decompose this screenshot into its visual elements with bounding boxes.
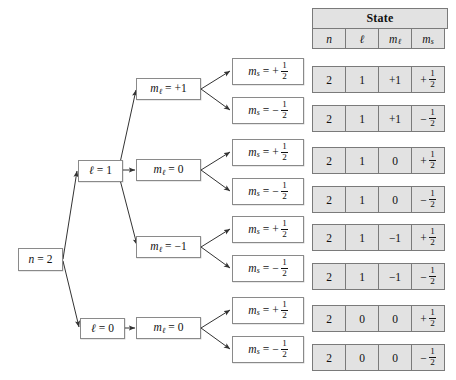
table-row[interactable]: 2 0 0 − 1 2 [312,344,448,371]
cell-l: 0 [345,305,379,332]
node-ml-plus1[interactable]: mℓ = +1 [136,78,201,100]
table-row[interactable]: 2 1 0 + 1 2 [312,147,448,174]
node-l-1[interactable]: ℓ = 1 [78,160,123,182]
fraction-half: 1 2 [429,108,436,128]
node-l-1-expression: ℓ = 1 [89,165,112,177]
denominator: 2 [281,192,288,202]
numerator: 1 [281,142,288,153]
cell-ml: −1 [378,263,412,290]
numerator: 1 [429,347,436,358]
fraction-half: 1 2 [429,69,436,89]
node-ms-6[interactable]: ms = − 1 2 [232,255,304,282]
denominator: 2 [281,311,288,321]
numerator: 1 [281,300,288,311]
fraction-half: 1 2 [281,181,288,201]
table-row[interactable]: 2 1 −1 − 1 2 [312,263,448,290]
numerator: 1 [281,219,288,230]
node-ml-minus1-expression: mℓ = −1 [150,241,187,253]
state-table: State n ℓ mℓ ms 2 1 +1 + [312,8,448,49]
numerator: 1 [429,266,436,277]
denominator: 2 [429,161,436,171]
node-ms-5[interactable]: ms = + 1 2 [232,216,304,243]
cell-n: 2 [312,305,346,332]
cell-ml: 0 [378,344,412,371]
equals-sign: = [165,83,172,95]
symbol-m: m [153,164,161,176]
numerator: 1 [429,69,436,80]
symbol-m: m [150,241,158,253]
value-ml: 0 [178,322,184,334]
table-row[interactable]: 2 1 +1 + 1 2 [312,66,448,93]
sign: + [420,232,427,244]
cell-ms: − 1 2 [411,263,445,290]
subscript-s: s [257,109,260,117]
sign: − [272,344,279,356]
symbol-m: m [248,147,256,159]
sign: + [420,155,427,167]
node-ms-8[interactable]: ms = − 1 2 [232,336,304,363]
sign: + [420,74,427,86]
denominator: 2 [429,119,436,129]
sign: − [272,263,279,275]
node-ms-4[interactable]: ms = − 1 2 [232,178,304,205]
numerator: 1 [281,339,288,350]
node-l-0[interactable]: ℓ = 0 [80,318,125,339]
cell-l: 0 [345,344,379,371]
cell-ml: 0 [378,186,412,213]
value-l: 1 [106,165,112,177]
symbol-l: ℓ [89,165,94,177]
sign: + [272,224,279,236]
node-ml-zero-p[interactable]: mℓ = 0 [136,159,201,181]
table-row[interactable]: 2 1 0 − 1 2 [312,186,448,213]
value-ml: 0 [178,164,184,176]
cell-n: 2 [312,344,346,371]
node-ms-2[interactable]: ms = − 1 2 [232,97,304,124]
cell-n: 2 [312,147,346,174]
symbol-m: m [248,263,256,275]
node-ms-7[interactable]: ms = + 1 2 [232,297,304,324]
numerator: 1 [429,227,436,238]
node-ml-minus1[interactable]: mℓ = −1 [136,236,201,258]
node-ms-5-expression: ms = + 1 2 [248,219,288,239]
node-ml-zero-s[interactable]: mℓ = 0 [136,317,201,339]
table-row[interactable]: 2 0 0 + 1 2 [312,305,448,332]
fraction-half: 1 2 [429,189,436,209]
fraction-half: 1 2 [281,61,288,81]
cell-n: 2 [312,263,346,290]
fraction-half: 1 2 [281,258,288,278]
sign: + [272,147,279,159]
fraction-half: 1 2 [281,300,288,320]
sign: − [272,186,279,198]
node-ms-3[interactable]: ms = + 1 2 [232,139,304,166]
sign: − [272,105,279,117]
symbol-m: m [153,322,161,334]
table-row[interactable]: 2 1 +1 − 1 2 [312,105,448,132]
node-n[interactable]: n = 2 [18,248,63,271]
cell-l: 1 [345,263,379,290]
cell-l: 1 [345,147,379,174]
subscript-s: s [257,228,260,236]
header-subscript-s: s [431,37,434,46]
equals-sign: = [263,186,270,198]
header-subscript-l: ℓ [398,37,401,46]
fraction-half: 1 2 [429,150,436,170]
equals-sign: = [97,165,104,177]
node-ml-zero-s-expression: mℓ = 0 [153,322,183,334]
symbol-m: m [248,186,256,198]
numerator: 1 [429,189,436,200]
cell-ml: −1 [378,224,412,251]
denominator: 2 [429,238,436,248]
equals-sign: = [165,241,172,253]
table-row[interactable]: 2 1 −1 + 1 2 [312,224,448,251]
node-ms-1[interactable]: ms = + 1 2 [232,58,304,85]
fraction-half: 1 2 [429,308,436,328]
header-symbol-l: ℓ [360,33,365,45]
node-n-expression: n = 2 [29,254,53,266]
numerator: 1 [281,100,288,111]
value-ml: +1 [175,83,187,95]
node-ms-3-expression: ms = + 1 2 [248,142,288,162]
symbol-m: m [248,224,256,236]
value-l: 0 [108,323,114,335]
table-header-n: n [312,28,346,49]
node-ms-1-expression: ms = + 1 2 [248,61,288,81]
